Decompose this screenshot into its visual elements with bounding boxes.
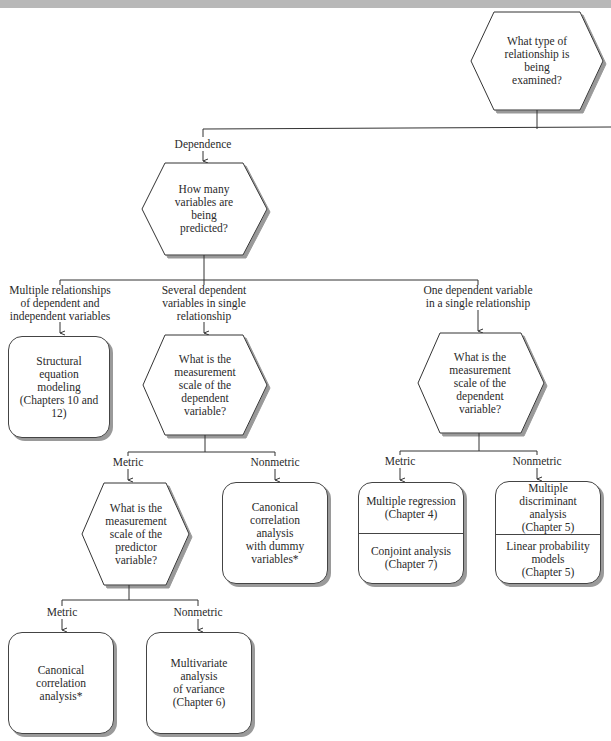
box-line: (Chapter 5) bbox=[522, 521, 575, 534]
question-line: predicted? bbox=[180, 222, 228, 235]
box-line: Multivariate bbox=[171, 657, 228, 670]
box-line: Linear probability bbox=[506, 540, 589, 553]
question-line: dependent bbox=[181, 392, 228, 405]
metric-methods-box: Multiple regression (Chapter 4) Conjoint… bbox=[358, 482, 464, 584]
question-line: variable? bbox=[459, 403, 501, 416]
box-line: Canonical bbox=[38, 664, 85, 677]
question-line: measurement bbox=[174, 366, 235, 379]
predictor-nonmetric-label: Nonmetric bbox=[173, 606, 222, 619]
label-line: in a single relationship bbox=[423, 297, 532, 310]
box-line: analysis bbox=[180, 670, 217, 683]
one-metric-label: Metric bbox=[385, 455, 416, 468]
box-line: discriminant bbox=[519, 495, 577, 508]
label-line: variables in single bbox=[162, 297, 247, 310]
sem-text: Structural equation modeling (Chapters 1… bbox=[9, 337, 109, 437]
box-line: variables* bbox=[251, 553, 298, 566]
box-line: (Chapter 7) bbox=[385, 558, 438, 571]
branch-several-dependent: Several dependent variables in single re… bbox=[162, 284, 247, 323]
root-question: What type of relationship is being exami… bbox=[480, 12, 594, 110]
branch-one-dependent: One dependent variable in a single relat… bbox=[423, 284, 532, 310]
box-line: correlation bbox=[250, 514, 300, 527]
box-line: (Chapters 10 and 12) bbox=[12, 394, 106, 420]
question-line: measurement bbox=[105, 515, 166, 528]
canonical-dummy-text: Canonical correlation analysis with dumm… bbox=[223, 483, 327, 583]
question-line: variable? bbox=[115, 554, 157, 567]
box-line: with dummy bbox=[246, 540, 304, 553]
question-line: being bbox=[191, 209, 217, 222]
conjoint-analysis-cell: Conjoint analysis (Chapter 7) bbox=[359, 534, 463, 584]
box-line: equation bbox=[39, 368, 79, 381]
question-line: How many bbox=[179, 183, 230, 196]
question-line: dependent bbox=[456, 390, 503, 403]
label-line: relationship bbox=[162, 310, 247, 323]
branch-multiple-relationships: Multiple relationships of dependent and … bbox=[9, 284, 110, 323]
discriminant-analysis-cell: Multiple discriminant analysis (Chapter … bbox=[496, 482, 600, 534]
box-line: models bbox=[531, 553, 564, 566]
scale-one-question: What is the measurement scale of the dep… bbox=[427, 333, 533, 433]
several-metric-label: Metric bbox=[113, 456, 144, 469]
manova-box: Multivariate analysis of variance (Chapt… bbox=[146, 632, 252, 734]
sem-box: Structural equation modeling (Chapters 1… bbox=[8, 336, 110, 438]
box-line: modeling bbox=[37, 381, 80, 394]
box-line: (Chapter 6) bbox=[173, 696, 226, 709]
label-line: One dependent variable bbox=[423, 284, 532, 297]
question-line: What is the bbox=[454, 351, 506, 364]
manova-text: Multivariate analysis of variance (Chapt… bbox=[147, 633, 251, 733]
box-line: correlation bbox=[36, 677, 86, 690]
scale-several-question: What is the measurement scale of the dep… bbox=[152, 335, 258, 435]
question-line: predictor bbox=[115, 541, 157, 554]
box-line: (Chapter 5) bbox=[522, 566, 575, 579]
one-nonmetric-label: Nonmetric bbox=[512, 455, 561, 468]
label-line: Multiple relationships bbox=[9, 284, 110, 297]
label-line: Several dependent bbox=[162, 284, 247, 297]
box-line: Conjoint analysis bbox=[371, 545, 451, 558]
question-line: scale of the bbox=[179, 379, 231, 392]
box-line: of variance bbox=[173, 683, 224, 696]
several-nonmetric-label: Nonmetric bbox=[250, 456, 299, 469]
box-line: Canonical bbox=[252, 501, 299, 514]
label-line: of dependent and bbox=[9, 297, 110, 310]
root-question-line: What type of bbox=[507, 35, 567, 48]
predicted-question: How many variables are being predicted? bbox=[150, 163, 258, 255]
canonical-correlation-text: Canonical correlation analysis* bbox=[9, 633, 113, 733]
canonical-dummy-box: Canonical correlation analysis with dumm… bbox=[222, 482, 328, 584]
question-line: What is the bbox=[179, 353, 231, 366]
question-line: What is the bbox=[110, 502, 162, 515]
root-question-line: examined? bbox=[512, 74, 562, 87]
root-question-line: being bbox=[524, 61, 550, 74]
question-line: variables are bbox=[175, 196, 233, 209]
box-line: Multiple regression bbox=[366, 495, 456, 508]
question-line: variable? bbox=[184, 405, 226, 418]
question-line: scale of the bbox=[454, 377, 506, 390]
box-line: analysis* bbox=[40, 690, 83, 703]
box-line: Structural bbox=[36, 355, 81, 368]
linear-probability-cell: Linear probability models (Chapter 5) bbox=[496, 535, 600, 583]
canonical-correlation-box: Canonical correlation analysis* bbox=[8, 632, 114, 734]
root-question-line: relationship is bbox=[505, 48, 570, 61]
box-line: Multiple bbox=[528, 482, 568, 495]
box-line: analysis bbox=[529, 508, 566, 521]
question-line: measurement bbox=[449, 364, 510, 377]
multiple-regression-cell: Multiple regression (Chapter 4) bbox=[359, 483, 463, 533]
nonmetric-methods-box: Multiple discriminant analysis (Chapter … bbox=[495, 481, 601, 584]
dependence-label: Dependence bbox=[175, 138, 232, 151]
box-line: (Chapter 4) bbox=[385, 508, 438, 521]
predictor-metric-label: Metric bbox=[47, 606, 78, 619]
label-line: independent variables bbox=[9, 310, 110, 323]
question-line: scale of the bbox=[110, 528, 162, 541]
predictor-question: What is the measurement scale of the pre… bbox=[90, 483, 182, 585]
box-line: analysis bbox=[256, 527, 293, 540]
